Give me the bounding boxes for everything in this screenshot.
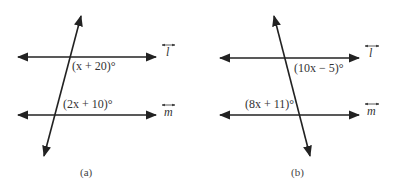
- line-label-m-a: m: [164, 105, 173, 119]
- caption-b: (b): [291, 166, 304, 179]
- line-label-l-b: l: [369, 46, 373, 60]
- angle-label-top-a: (x + 20)°: [72, 59, 116, 73]
- transversal-b: [274, 16, 310, 156]
- parallel-lines-diagram: (x + 20)° (2x + 10)° l m (a) (10x − 5)° …: [0, 0, 394, 189]
- figure-a: (x + 20)° (2x + 10)° l m (a): [18, 16, 175, 179]
- line-label-m-b: m: [367, 104, 376, 118]
- caption-a: (a): [80, 166, 93, 179]
- figure-b: (10x − 5)° (8x + 11)° l m (b): [220, 16, 379, 179]
- angle-label-top-b: (10x − 5)°: [294, 61, 344, 75]
- transversal-a: [44, 16, 81, 156]
- angle-label-bottom-b: (8x + 11)°: [245, 97, 294, 111]
- angle-label-bottom-a: (2x + 10)°: [63, 97, 113, 111]
- line-label-l-a: l: [166, 45, 170, 59]
